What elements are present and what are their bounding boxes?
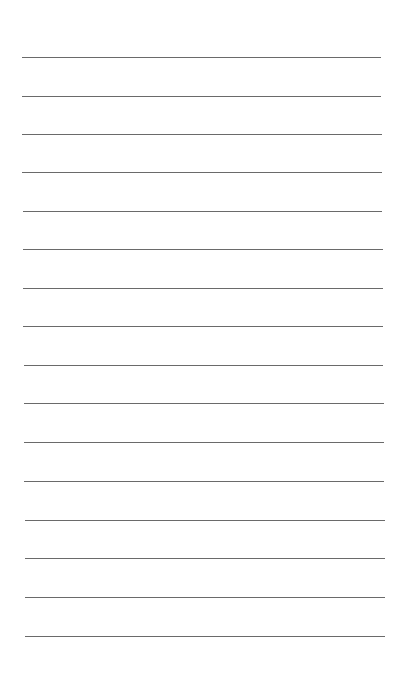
ruled-line: [23, 211, 382, 212]
ruled-line: [22, 57, 381, 58]
ruled-line: [25, 636, 385, 637]
ruled-line: [22, 96, 381, 97]
lined-paper-page: [0, 0, 401, 681]
ruled-line: [25, 597, 385, 598]
ruled-line: [25, 520, 385, 521]
ruled-line: [24, 481, 384, 482]
ruled-line: [24, 365, 383, 366]
ruled-line: [24, 442, 384, 443]
ruled-line: [23, 326, 383, 327]
ruled-line: [23, 249, 383, 250]
ruled-line: [22, 134, 382, 135]
ruled-line: [25, 558, 385, 559]
ruled-line: [23, 288, 383, 289]
ruled-line: [24, 403, 384, 404]
ruled-line: [22, 172, 382, 173]
